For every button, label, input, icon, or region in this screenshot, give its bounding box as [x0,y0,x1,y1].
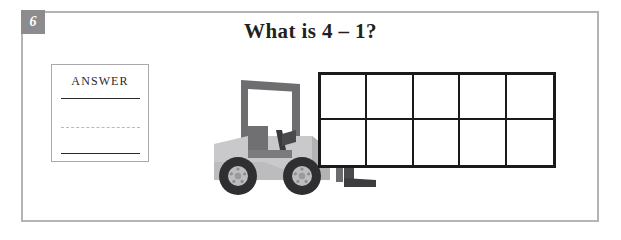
answer-rule-bottom [61,153,140,154]
ten-frame-cell[interactable] [414,120,460,165]
forklift-seat-base-icon [248,150,292,158]
ten-frame-cell[interactable] [460,120,506,165]
answer-rule-top [61,98,140,99]
ten-frame-cell[interactable] [507,75,553,120]
answer-rule-middle [61,127,140,128]
page-title: What is 4 – 1? [0,19,621,44]
forklift-rear-wheel-icon [219,157,257,195]
ten-frame-cell[interactable] [460,75,506,120]
ten-frame-cell[interactable] [367,120,413,165]
answer-label: ANSWER [52,74,148,89]
forklift-front-wheel-icon [283,157,321,195]
answer-box[interactable]: ANSWER [51,64,149,162]
ten-frame-cell[interactable] [367,75,413,120]
ten-frame-cell[interactable] [414,75,460,120]
ten-frame[interactable] [318,72,556,168]
ten-frame-cell[interactable] [321,120,367,165]
ten-frame-cell[interactable] [507,120,553,165]
question-number-badge: 6 [21,10,45,34]
forklift-fork-tine-icon [344,178,376,187]
ten-frame-cell[interactable] [321,75,367,120]
